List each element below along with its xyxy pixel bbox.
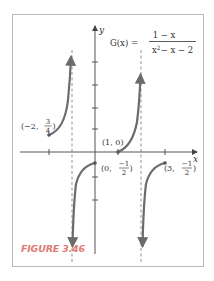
point-label-3-neg-half: (3, −1 2 ): [164, 160, 196, 177]
figure-caption: FIGURE 3.46: [21, 243, 85, 254]
equation-denominator: x2− x − 2: [152, 44, 193, 55]
point-label-neg2: (−2, 3 4 ): [21, 118, 56, 135]
curve-middle-lower: [73, 163, 96, 246]
svg-text:): ): [193, 164, 196, 173]
point-label-1-0: (1, 0): [102, 138, 124, 147]
svg-text:−1: −1: [182, 160, 192, 168]
x-axis-label: x: [193, 154, 198, 164]
svg-text:3: 3: [46, 118, 50, 126]
svg-text:−1: −1: [119, 160, 129, 168]
svg-text:): ): [130, 164, 133, 173]
graph: y x G(x) = 1 − x x2− x − 2 (−2, 3 4 ) (1…: [0, 0, 214, 281]
equation-numerator: 1 − x: [153, 30, 176, 40]
svg-text:4: 4: [46, 127, 51, 135]
svg-text:2: 2: [185, 169, 189, 177]
svg-text:(−2,: (−2,: [21, 122, 38, 131]
y-axis-label: y: [98, 25, 105, 35]
svg-text:(3,: (3,: [164, 164, 175, 173]
svg-text:(0,: (0,: [101, 164, 112, 173]
svg-text:2: 2: [122, 169, 126, 177]
svg-text:): ): [53, 122, 56, 131]
point-label-0-neg-half: (0, −1 2 ): [101, 160, 133, 177]
curve-right-branch: [143, 163, 166, 246]
equation-lhs: G(x) =: [110, 38, 138, 48]
